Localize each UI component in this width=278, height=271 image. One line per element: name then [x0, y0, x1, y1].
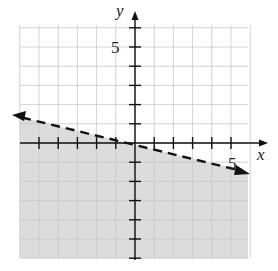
shaded-region	[20, 117, 248, 258]
left-arrow-icon	[12, 111, 26, 121]
graph: y x 5 5	[0, 0, 278, 271]
y-axis-arrow-icon	[132, 11, 139, 20]
x-axis-label: x	[256, 145, 265, 164]
x-tick-label-5: 5	[228, 154, 237, 173]
y-tick-label-5: 5	[111, 38, 120, 57]
y-axis-label: y	[114, 1, 124, 20]
